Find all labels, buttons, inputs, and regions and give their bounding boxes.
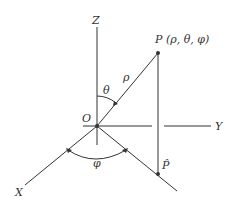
diagram-svg: Z Y X O P (ρ, θ, φ) ρ θ φ P̂ bbox=[0, 0, 237, 208]
y-axis-label: Y bbox=[215, 120, 224, 133]
origin-label: O bbox=[82, 112, 91, 125]
theta-label: θ bbox=[103, 84, 110, 97]
spherical-coordinates-diagram: Z Y X O P (ρ, θ, φ) ρ θ φ P̂ bbox=[0, 0, 237, 208]
rho-label: ρ bbox=[122, 71, 130, 84]
x-axis-label: X bbox=[14, 186, 24, 199]
z-axis-label: Z bbox=[91, 14, 100, 27]
phi-label: φ bbox=[93, 157, 101, 170]
point-p-label: P (ρ, θ, φ) bbox=[154, 33, 209, 46]
origin-point bbox=[95, 124, 99, 128]
point-p bbox=[156, 51, 160, 55]
theta-arc bbox=[97, 96, 116, 103]
x-axis bbox=[25, 126, 97, 185]
projection-label: P̂ bbox=[161, 159, 170, 172]
point-p-hat bbox=[156, 172, 160, 176]
